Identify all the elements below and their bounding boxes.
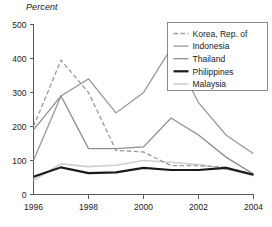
legend-label: Philippines: [193, 67, 234, 77]
y-tick-label: 100: [12, 156, 26, 166]
y-tick-label: 400: [12, 54, 26, 64]
y-tick-label: 200: [12, 122, 26, 132]
legend-label: Thailand: [193, 54, 226, 64]
y-tick-label: 0: [22, 190, 27, 200]
x-tick-label: 2002: [189, 202, 208, 212]
y-axis-title: Percent: [26, 2, 58, 12]
x-tick-label: 2004: [244, 202, 263, 212]
y-tick-label: 300: [12, 88, 26, 98]
y-axis-tick-labels: 0100200300400500: [12, 20, 26, 200]
x-axis-tick-labels: 19961998200020022004: [24, 202, 263, 212]
x-tick-label: 1996: [24, 202, 43, 212]
line-chart: Percent 0100200300400500 199619982000200…: [0, 0, 272, 227]
y-tick-label: 500: [12, 20, 26, 30]
series-line-thailand: [34, 96, 254, 174]
plot-area: 0100200300400500 19961998200020022004 Ko…: [0, 0, 272, 227]
legend-label: Korea, Rep. of: [193, 29, 248, 39]
chart-legend: Korea, Rep. ofIndonesiaThailandPhilippin…: [168, 23, 268, 91]
series-line-philippines: [34, 167, 254, 177]
x-tick-label: 1998: [79, 202, 98, 212]
legend-label: Indonesia: [193, 41, 230, 51]
series-line-malaysia: [34, 161, 254, 181]
x-tick-label: 2000: [134, 202, 153, 212]
legend-label: Malaysia: [193, 79, 227, 89]
